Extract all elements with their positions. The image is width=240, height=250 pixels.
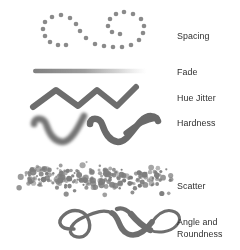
stroke-label-fade: Fade	[177, 66, 198, 78]
spacing-dot	[118, 32, 123, 37]
spacing-dot	[43, 20, 48, 25]
scatter-dot	[156, 176, 159, 179]
spacing-dot	[139, 17, 144, 22]
scatter-dot	[165, 168, 167, 170]
scatter-dot	[38, 178, 41, 181]
scatter-dot	[158, 178, 162, 182]
scatter-dot	[16, 185, 21, 190]
scatter-dot	[18, 174, 24, 180]
scatter-dot	[32, 176, 37, 181]
stroke-label-spacing: Spacing	[177, 30, 210, 42]
scatter-dot	[102, 192, 107, 197]
scatter-dot	[25, 171, 29, 175]
scatter-dot	[99, 165, 101, 167]
scatter-dot	[59, 164, 63, 168]
scatter-dot	[153, 170, 157, 174]
scatter-dot	[57, 177, 63, 183]
stroke-label-hardness: Hardness	[177, 117, 216, 129]
scatter-dot	[159, 170, 162, 173]
scatter-dot	[64, 184, 67, 187]
spacing-dot	[102, 44, 107, 49]
scatter-dot	[82, 184, 84, 186]
stroke-label-hue-jitter: Hue Jitter	[177, 92, 216, 104]
scatter-dot	[28, 174, 30, 176]
scatter-dot	[108, 178, 112, 182]
scatter-dot	[136, 178, 139, 181]
scatter-dot	[118, 187, 120, 189]
scatter-dot	[67, 177, 72, 182]
spacing-dot	[59, 13, 64, 18]
spacing-dot	[111, 45, 116, 50]
scatter-dot	[69, 169, 73, 173]
spacing-dot	[56, 43, 61, 48]
scatter-dot	[41, 166, 47, 172]
scatter-dot	[52, 172, 54, 174]
scatter-dot	[98, 183, 101, 186]
scatter-dot	[64, 191, 69, 196]
scatter-dot	[145, 172, 147, 174]
spacing-dot	[78, 29, 83, 34]
scatter-dot	[123, 179, 126, 182]
scatter-dot	[158, 173, 161, 176]
scatter-dot	[168, 173, 173, 178]
scatter-dot	[38, 183, 42, 187]
spacing-dot	[129, 43, 134, 48]
scatter-dot	[29, 181, 32, 184]
scatter-dot	[169, 177, 173, 181]
scatter-dot	[47, 168, 52, 173]
scatter-dot	[139, 184, 142, 187]
spacing-dot	[64, 43, 69, 48]
scatter-dot	[108, 167, 112, 171]
scatter-dot	[63, 169, 66, 172]
scatter-dot	[44, 177, 46, 179]
scatter-dot	[75, 169, 78, 172]
scatter-dot	[74, 172, 76, 174]
scatter-dot	[86, 161, 88, 163]
scatter-dot	[91, 185, 96, 190]
scatter-dot	[67, 184, 72, 189]
scatter-dot	[100, 175, 103, 178]
scatter-dot	[159, 191, 164, 196]
scatter-dot	[112, 168, 116, 172]
scatter-dot	[130, 191, 134, 195]
sample-stroke-fade	[33, 69, 147, 74]
scatter-dot	[59, 169, 62, 172]
scatter-dot	[73, 189, 77, 193]
scatter-dot	[119, 172, 125, 178]
spacing-dot	[93, 42, 98, 47]
scatter-dot	[167, 192, 171, 196]
spacing-dot	[141, 31, 146, 36]
scatter-dot	[152, 183, 154, 185]
scatter-dot	[83, 175, 89, 181]
scatter-dot	[108, 176, 110, 178]
spacing-dot	[74, 22, 79, 27]
scatter-dot	[73, 179, 76, 182]
scatter-dot	[115, 171, 118, 174]
scatter-dot	[99, 178, 103, 182]
scatter-dot	[110, 182, 116, 188]
scatter-dot	[56, 167, 58, 169]
scatter-dot	[89, 169, 94, 174]
spacing-dot	[142, 24, 147, 29]
scatter-dot	[149, 176, 154, 181]
scatter-dot	[30, 167, 35, 172]
scatter-dot	[155, 182, 159, 186]
scatter-dot	[55, 186, 59, 190]
spacing-dot	[108, 17, 113, 22]
spacing-dot	[106, 24, 111, 29]
scatter-dot	[132, 182, 135, 185]
scatter-dot	[35, 166, 41, 172]
spacing-dot	[84, 36, 89, 41]
spacing-dot	[50, 15, 55, 20]
spacing-dot	[41, 27, 46, 32]
scatter-dot	[133, 186, 137, 190]
spacing-dot	[114, 12, 119, 17]
spacing-dot	[122, 10, 127, 15]
scatter-dot	[112, 173, 117, 178]
spacing-dot	[43, 34, 48, 39]
scatter-dot	[104, 174, 107, 177]
spacing-dot	[110, 30, 115, 35]
spacing-dot	[48, 40, 53, 45]
scatter-dot	[121, 169, 123, 171]
scatter-dot	[84, 186, 88, 190]
